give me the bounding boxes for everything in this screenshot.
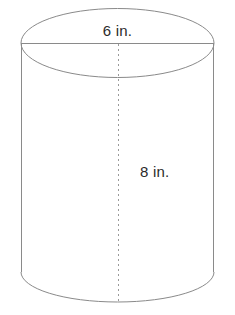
top-ellipse-back-arc	[21, 43, 214, 78]
height-label: 8 in.	[140, 164, 169, 179]
diameter-label: 6 in.	[0, 23, 235, 38]
cylinder-figure: 6 in. 8 in.	[0, 0, 235, 315]
bottom-front-arc	[21, 272, 214, 302]
cylinder-drawing	[0, 0, 235, 315]
